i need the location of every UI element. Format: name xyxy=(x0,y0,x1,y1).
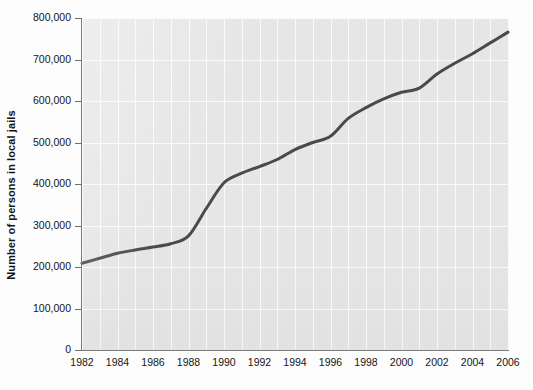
x-tick-label: 2006 xyxy=(496,356,519,368)
x-tick-label: 2002 xyxy=(425,356,448,368)
vertical-gridline xyxy=(508,18,509,350)
y-tick-mark xyxy=(75,350,81,351)
x-tick-label: 1992 xyxy=(248,356,271,368)
y-tick-mark xyxy=(75,18,81,19)
x-tick-label: 1984 xyxy=(106,356,129,368)
y-tick-label: 300,000 xyxy=(0,219,71,231)
y-tick-label: 800,000 xyxy=(0,11,71,23)
x-tick-label: 2004 xyxy=(461,356,484,368)
y-tick-mark xyxy=(75,101,81,102)
y-tick-mark xyxy=(75,267,81,268)
jail-population-line xyxy=(82,18,508,350)
y-tick-label: 0 xyxy=(0,343,71,355)
x-axis-line xyxy=(81,350,509,351)
y-tick-label: 500,000 xyxy=(0,136,71,148)
x-tick-label: 1990 xyxy=(212,356,235,368)
y-tick-label: 200,000 xyxy=(0,260,71,272)
x-tick-label: 1982 xyxy=(70,356,93,368)
y-tick-label: 400,000 xyxy=(0,177,71,189)
y-tick-label: 700,000 xyxy=(0,53,71,65)
x-tick-label: 1994 xyxy=(283,356,306,368)
y-tick-mark xyxy=(75,60,81,61)
y-tick-label: 100,000 xyxy=(0,302,71,314)
y-tick-label: 600,000 xyxy=(0,94,71,106)
x-tick-label: 1998 xyxy=(354,356,377,368)
y-axis-line xyxy=(81,18,82,351)
x-tick-label: 1986 xyxy=(141,356,164,368)
y-tick-mark xyxy=(75,143,81,144)
y-tick-mark xyxy=(75,309,81,310)
plot-area xyxy=(82,18,508,350)
x-tick-label: 2000 xyxy=(390,356,413,368)
y-tick-mark xyxy=(75,184,81,185)
y-tick-mark xyxy=(75,226,81,227)
x-tick-label: 1988 xyxy=(177,356,200,368)
x-tick-label: 1996 xyxy=(319,356,342,368)
chart-figure: Number of persons in local jails 0100,00… xyxy=(0,0,533,390)
